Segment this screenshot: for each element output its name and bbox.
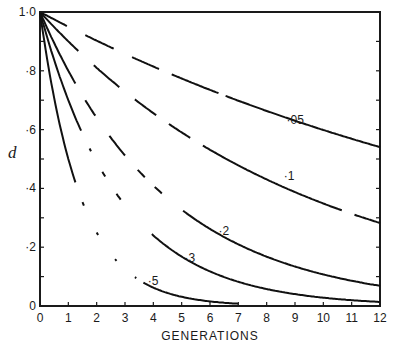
x-tick-label: 7 [235, 311, 242, 325]
x-tick-label: 8 [263, 311, 270, 325]
x-tick-label: 9 [292, 311, 299, 325]
y-tick-label: 1·0 [19, 5, 37, 19]
x-tick-label: 2 [93, 311, 100, 325]
curve-p1 [40, 12, 380, 223]
x-tick-label: 12 [373, 311, 387, 325]
curve-label: ·2 [219, 224, 230, 238]
y-axis-label: d [8, 143, 17, 162]
curve-p5 [40, 12, 238, 304]
y-tick-label: ·2 [25, 240, 36, 254]
x-tick-label: 4 [150, 311, 157, 325]
curves [40, 12, 380, 304]
curve-p05 [40, 12, 380, 147]
x-tick-label: 10 [317, 311, 331, 325]
curve-label: ·5 [148, 274, 159, 288]
y-tick-label: 0 [29, 299, 36, 313]
x-axis-label: GENERATIONS [161, 329, 258, 343]
y-tick-label: ·8 [25, 64, 36, 78]
x-tick-label: 0 [37, 311, 44, 325]
curve-label: ·1 [284, 169, 295, 183]
x-tick-label: 1 [65, 311, 72, 325]
plot-border [40, 12, 380, 306]
x-tick-label: 11 [345, 311, 358, 325]
x-tick-label: 5 [178, 311, 185, 325]
curve-p3 [40, 12, 380, 302]
y-tick-label: ·4 [25, 181, 36, 195]
curve-label: ·05 [287, 113, 305, 127]
x-tick-label: 6 [207, 311, 214, 325]
plot-frame [40, 12, 380, 306]
y-tick-label: ·6 [25, 123, 36, 137]
decay-line-chart: 0·2·4·6·81·0 0123456789101112 ·05·1·2·3·… [0, 0, 394, 350]
x-tick-label: 3 [122, 311, 129, 325]
curve-label: ·3 [185, 251, 196, 265]
